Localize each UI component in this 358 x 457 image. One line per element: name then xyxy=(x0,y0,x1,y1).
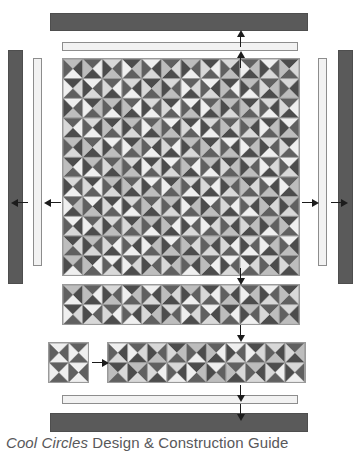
left-outer-border-strip xyxy=(8,50,23,284)
main-quilt-top xyxy=(62,58,300,276)
single-block-panel xyxy=(48,342,89,383)
sashing-strip-panel xyxy=(62,284,300,325)
top-inner-border-strip xyxy=(62,42,298,51)
guide-page: Cool Circles Design & Construction Guide xyxy=(0,0,358,457)
right-outer-border-strip xyxy=(338,50,353,284)
page-title-regular: Design & Construction Guide xyxy=(88,434,288,451)
right-inner-border-strip xyxy=(318,58,327,266)
block-row-panel xyxy=(107,342,306,383)
bottom-inner-border-strip xyxy=(62,395,298,404)
left-inner-border-strip xyxy=(33,58,42,266)
page-title-italic: Cool Circles xyxy=(6,434,88,451)
bottom-outer-border-strip xyxy=(50,413,308,432)
page-title: Cool Circles Design & Construction Guide xyxy=(6,434,288,451)
top-outer-border-strip xyxy=(50,13,308,31)
